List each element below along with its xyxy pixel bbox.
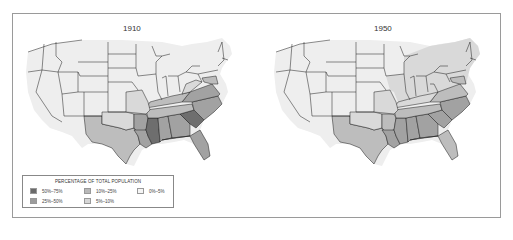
legend-label: 0%–5% [149, 189, 165, 194]
legend-swatch [30, 198, 37, 204]
map-legend: PERCENTAGE OF TOTAL POPULATION 50%–75% 1… [22, 175, 174, 208]
legend-item-25-50: 25%–50% [30, 198, 63, 204]
us-map-1950 [270, 32, 500, 172]
us-map-1910 [22, 32, 252, 172]
legend-title: PERCENTAGE OF TOTAL POPULATION [23, 179, 173, 184]
legend-item-50-75: 50%–75% [30, 188, 63, 194]
legend-label: 5%–10% [96, 199, 114, 204]
legend-item-10-25: 10%–25% [84, 188, 117, 194]
legend-label: 50%–75% [42, 189, 63, 194]
legend-swatch [84, 198, 91, 204]
legend-label: 10%–25% [96, 189, 117, 194]
legend-swatch [30, 188, 37, 194]
legend-label: 25%–50% [42, 199, 63, 204]
legend-item-5-10: 5%–10% [84, 198, 114, 204]
legend-item-0-5: 0%–5% [137, 188, 165, 194]
legend-swatch [84, 188, 91, 194]
legend-swatch [137, 188, 144, 194]
